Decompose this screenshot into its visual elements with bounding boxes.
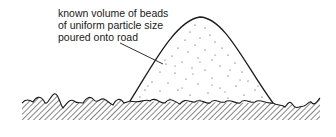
- leader-line: [120, 43, 163, 64]
- label-line-3: poured onto road: [58, 31, 168, 43]
- label-line-1: known volume of beads: [58, 7, 168, 19]
- label-line-2: of uniform particle size: [58, 19, 168, 31]
- bead-label: known volume of beads of uniform particl…: [58, 7, 168, 43]
